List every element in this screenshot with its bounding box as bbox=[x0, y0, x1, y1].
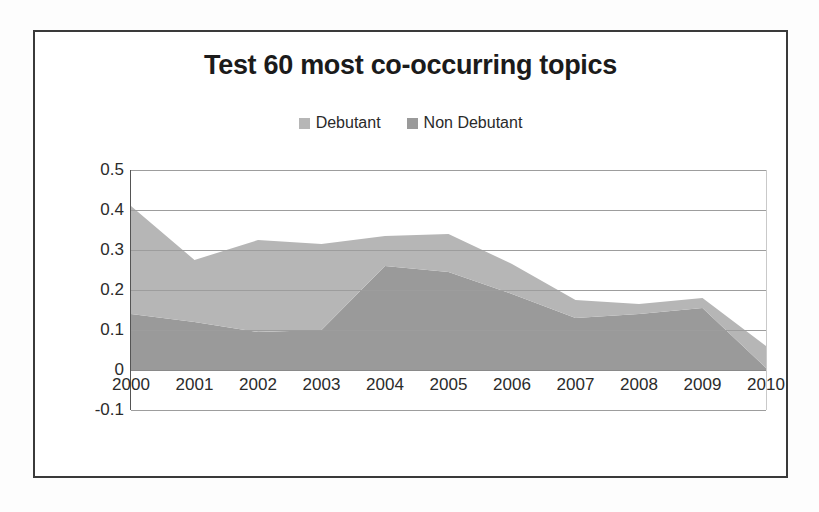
y-axis-tick-label: 0.1 bbox=[100, 320, 124, 340]
y-axis-tick-label: -0.1 bbox=[95, 400, 124, 420]
gridline bbox=[131, 210, 766, 211]
gridline bbox=[131, 170, 766, 171]
chart-title: Test 60 most co-occurring topics bbox=[35, 50, 786, 81]
gridline bbox=[131, 330, 766, 331]
plot-wrapper: 0.50.40.30.20.10-0.120002001200220032004… bbox=[97, 170, 767, 455]
x-axis-tick-label: 2008 bbox=[620, 375, 658, 395]
x-axis-tick-label: 2002 bbox=[239, 375, 277, 395]
x-axis-tick-label: 2007 bbox=[557, 375, 595, 395]
y-axis-tick-label: 0.5 bbox=[100, 160, 124, 180]
x-axis-tick-label: 2010 bbox=[747, 375, 785, 395]
x-axis-tick-label: 2003 bbox=[303, 375, 341, 395]
x-axis-tick-label: 2009 bbox=[684, 375, 722, 395]
x-axis-tick-label: 2004 bbox=[366, 375, 404, 395]
gridline bbox=[131, 290, 766, 291]
y-axis-tick-label: 0.3 bbox=[100, 240, 124, 260]
legend-item-non-debutant: Non Debutant bbox=[407, 114, 523, 132]
y-axis-tick-label: 0.2 bbox=[100, 280, 124, 300]
legend-swatch-debutant bbox=[299, 118, 310, 129]
x-axis-tick-label: 2006 bbox=[493, 375, 531, 395]
chart-container: Test 60 most co-occurring topics Debutan… bbox=[33, 30, 788, 478]
legend-item-debutant: Debutant bbox=[299, 114, 381, 132]
x-axis-tick-label: 2001 bbox=[176, 375, 214, 395]
chart-legend: Debutant Non Debutant bbox=[35, 114, 786, 132]
legend-swatch-non-debutant bbox=[407, 118, 418, 129]
legend-label-debutant: Debutant bbox=[316, 114, 381, 132]
gridline bbox=[131, 250, 766, 251]
gridline bbox=[131, 410, 766, 411]
x-axis-tick-label: 2000 bbox=[112, 375, 150, 395]
legend-label-non-debutant: Non Debutant bbox=[424, 114, 523, 132]
x-axis-tick-label: 2005 bbox=[430, 375, 468, 395]
y-axis-tick-label: 0.4 bbox=[100, 200, 124, 220]
plot-area: 0.50.40.30.20.10-0.120002001200220032004… bbox=[130, 170, 767, 410]
gridline bbox=[131, 370, 766, 371]
